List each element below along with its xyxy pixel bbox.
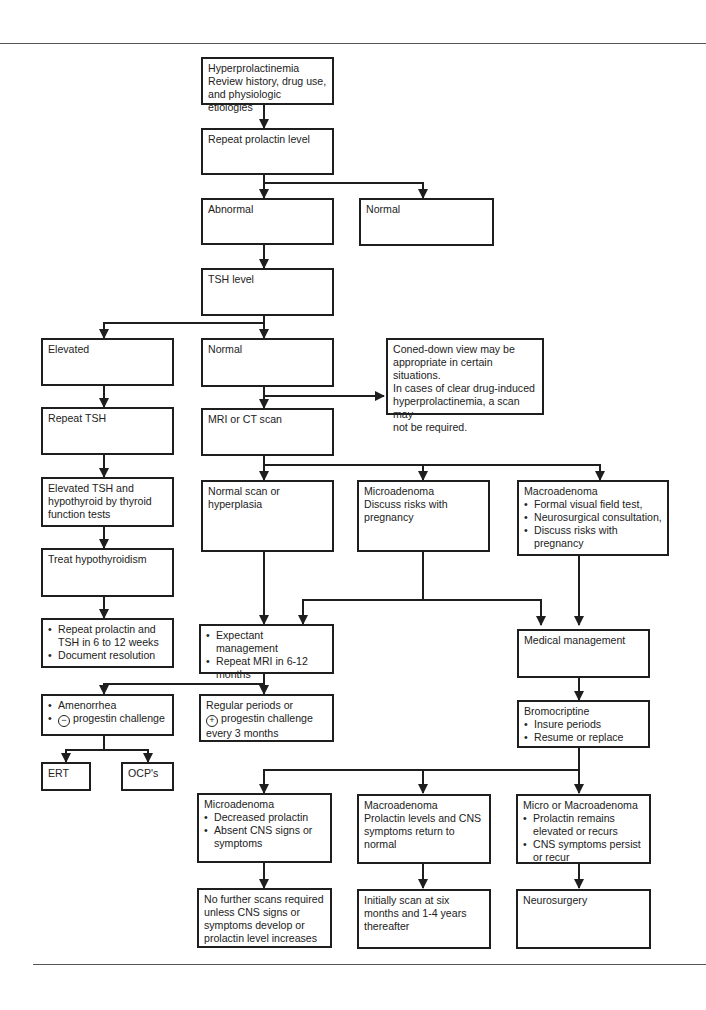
node-microadenoma-dx: Microadenoma Discuss risks with pregnanc… <box>357 480 490 552</box>
node-ert: ERT <box>41 762 91 791</box>
node-repeat-tsh: Repeat TSH <box>41 407 174 455</box>
bromocriptine-bullets: Insure periods Resume or replace <box>524 718 643 744</box>
node-normal-prolactin: Normal <box>359 198 494 246</box>
plus-circle-icon: + <box>206 715 218 727</box>
node-expectant-management: Expectant management Repeat MRI in 6-12 … <box>199 624 334 674</box>
node-medical-management: Medical management <box>517 629 650 678</box>
macroadenoma-dx-bullets: Formal visual field test, Neurosurgical … <box>524 498 662 550</box>
node-normal-scan: Normal scan or hyperplasia <box>201 480 334 552</box>
node-ocps: OCP's <box>121 762 174 791</box>
node-mri-ct: MRI or CT scan <box>201 408 334 456</box>
microadenoma-followup-bullets: Decreased prolactin Absent CNS signs or … <box>204 811 325 850</box>
expectant-management-bullets: Expectant management Repeat MRI in 6-12 … <box>206 629 327 681</box>
node-treat-hypothyroidism: Treat hypothyroidism <box>41 548 174 597</box>
node-normal-tsh: Normal <box>201 338 334 387</box>
node-neurosurgery: Neurosurgery <box>516 889 651 949</box>
node-macroadenoma-dx: Macroadenoma Formal visual field test, N… <box>517 480 669 556</box>
node-elevated: Elevated <box>41 338 174 386</box>
node-initially-scan: Initially scan at six months and 1-4 yea… <box>357 889 491 949</box>
node-micro-or-macroadenoma: Micro or Macroadenoma Prolactin remains … <box>516 794 651 864</box>
node-coned-down-note: Coned-down view may be appropriate in ce… <box>386 338 544 415</box>
node-no-further-scans: No further scans required unless CNS sig… <box>197 888 332 948</box>
node-regular-periods: Regular periods or +progestin challenge … <box>199 694 334 742</box>
node-amenorrhea: Amenorrhea −progestin challenge <box>41 694 174 736</box>
minus-circle-icon: − <box>58 715 70 727</box>
node-tsh-level: TSH level <box>201 268 334 316</box>
node-microadenoma-followup: Microadenoma Decreased prolactin Absent … <box>197 793 332 863</box>
node-bromocriptine: Bromocriptine Insure periods Resume or r… <box>517 700 650 748</box>
node-macroadenoma-followup: Macroadenoma Prolactin levels and CNS sy… <box>357 794 491 864</box>
amenorrhea-bullets: Amenorrhea −progestin challenge <box>48 699 167 727</box>
node-elevated-tsh-hypothyroid: Elevated TSH and hypothyroid by thyroid … <box>41 477 174 527</box>
micro-or-macro-bullets: Prolactin remains elevated or recurs CNS… <box>523 812 644 864</box>
repeat-prolactin-tsh-bullets: Repeat prolactin and TSH in 6 to 12 week… <box>48 623 167 662</box>
node-start: Hyperprolactinemia Review history, drug … <box>201 57 334 105</box>
node-repeat-prolactin-tsh: Repeat prolactin and TSH in 6 to 12 week… <box>41 618 174 668</box>
node-repeat-prolactin: Repeat prolactin level <box>201 128 334 175</box>
node-abnormal: Abnormal <box>201 198 334 245</box>
